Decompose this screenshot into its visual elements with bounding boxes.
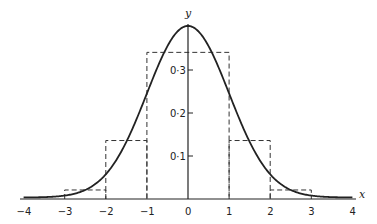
x-tick-label: 4 <box>349 206 355 217</box>
histogram-bar <box>106 141 147 199</box>
histogram-bar <box>229 141 270 199</box>
x-axis-label: x <box>359 188 366 201</box>
normal-distribution-chart: −4−3−2−101234 0·10·20·3 x y <box>0 0 377 224</box>
x-tick-label: 3 <box>308 206 314 217</box>
x-tick-label: 2 <box>267 206 273 217</box>
x-tick-label: −2 <box>99 206 114 217</box>
x-tick-labels: −4−3−2−101234 <box>17 206 356 217</box>
x-tick-label: −4 <box>17 206 32 217</box>
y-tick-label: 0·2 <box>170 108 186 119</box>
y-tick-label: 0·1 <box>170 151 186 162</box>
y-tick-label: 0·3 <box>170 65 186 76</box>
y-tick-labels: 0·10·20·3 <box>170 65 193 162</box>
x-tick-label: 1 <box>226 206 232 217</box>
x-tick-label: −1 <box>140 206 155 217</box>
x-tick-label: −3 <box>58 206 73 217</box>
x-tick-label: 0 <box>185 206 191 217</box>
y-axis-label: y <box>184 7 192 20</box>
